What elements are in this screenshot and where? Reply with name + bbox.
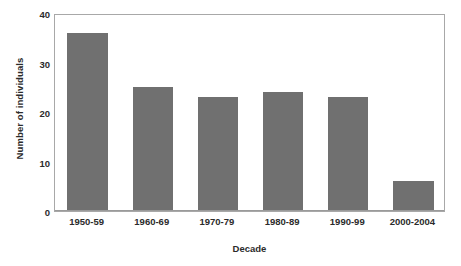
- bar: [67, 33, 107, 211]
- x-axis-tick-label: 1950-59: [69, 216, 104, 227]
- bar: [328, 97, 368, 211]
- x-axis-tick-label: 1970-79: [199, 216, 234, 227]
- bar: [393, 181, 433, 211]
- bar-chart-figure: Number of individuals 010203040 1950-591…: [0, 0, 461, 266]
- y-axis-tick-label: 40: [8, 9, 54, 20]
- x-axis-tick-label: 1960-69: [134, 216, 169, 227]
- y-axis-tick-labels: 010203040: [0, 0, 54, 266]
- bar: [198, 97, 238, 211]
- x-axis-title: Decade: [54, 243, 445, 254]
- x-axis-tick-label: 1990-99: [330, 216, 365, 227]
- bar: [133, 87, 173, 211]
- bar: [263, 92, 303, 211]
- y-axis-tick-label: 30: [8, 58, 54, 69]
- x-axis-tick-labels: 1950-591960-691970-791980-891990-992000-…: [54, 216, 445, 234]
- x-axis-tick-label: 1980-89: [265, 216, 300, 227]
- x-axis-tick-label: 2000-2004: [390, 216, 435, 227]
- y-axis-tick-label: 20: [8, 108, 54, 119]
- y-axis-tick-label: 0: [8, 207, 54, 218]
- plot-area: [54, 14, 445, 212]
- y-axis-tick-label: 10: [8, 157, 54, 168]
- bar-series: [55, 15, 444, 211]
